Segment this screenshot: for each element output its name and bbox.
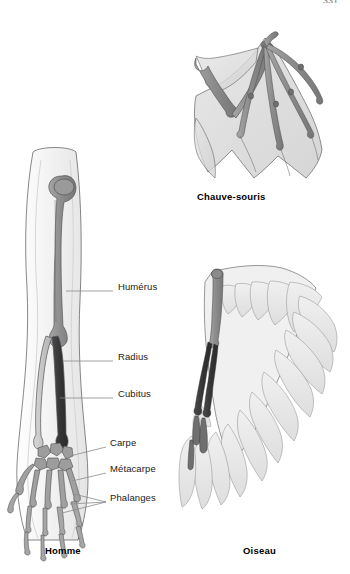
label-phalanges: Phalanges (110, 493, 156, 503)
anatomy-illustration (0, 0, 350, 574)
label-metacarpe: Métacarpe (110, 464, 156, 474)
caption-oiseau: Oiseau (243, 546, 276, 556)
label-carpe: Carpe (110, 438, 136, 448)
specimen-chauve-souris (194, 32, 323, 178)
label-cubitus: Cubitus (118, 389, 151, 399)
figure-plate: 331 (0, 0, 350, 574)
specimen-homme (8, 148, 88, 562)
specimen-oiseau (179, 265, 337, 509)
label-humerus: Humérus (118, 282, 157, 292)
label-radius: Radius (118, 352, 148, 362)
caption-homme: Homme (45, 546, 81, 556)
caption-chauve-souris: Chauve-souris (197, 192, 266, 202)
